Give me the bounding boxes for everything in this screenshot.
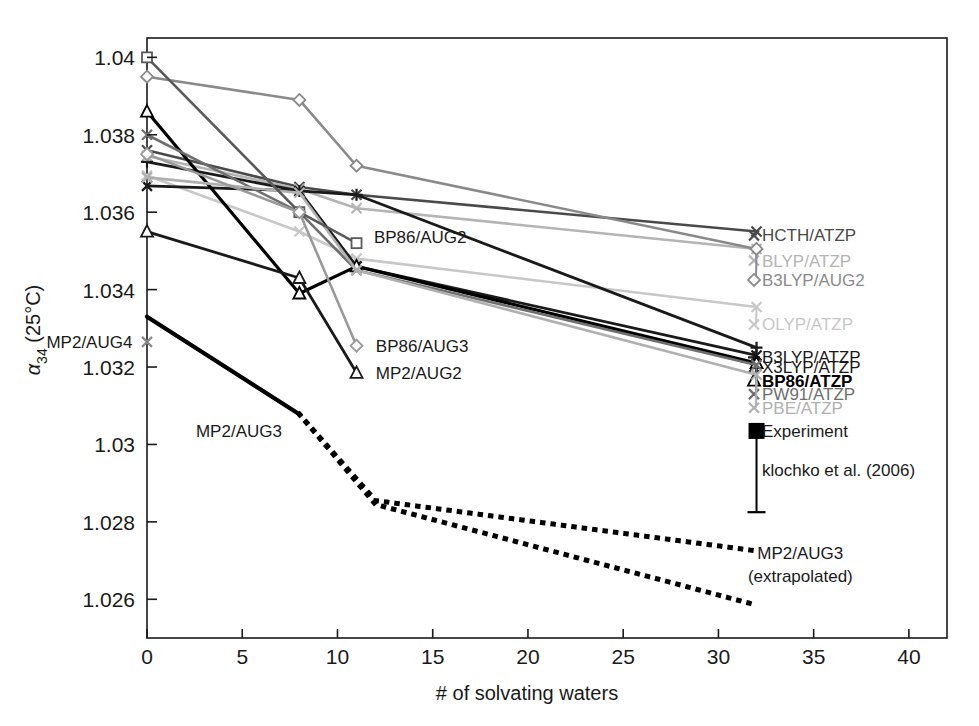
x-tick-label: 10 [326, 645, 349, 668]
legend-leader-8 [756, 375, 757, 408]
x-tick-label: 0 [141, 645, 153, 668]
annotation-mp2-aug3: MP2/AUG3 [196, 422, 282, 441]
legend-label-b3lyp-aug2[interactable]: B3LYP/AUG2 [762, 271, 865, 290]
x-tick-label: 30 [707, 645, 730, 668]
x-axis-title: # of solvating waters [436, 682, 618, 704]
annotation-extrapolated-line2: (extrapolated) [748, 567, 853, 586]
x-tick-label: 40 [897, 645, 920, 668]
y-tick-label: 1.03 [94, 433, 135, 456]
legend-label-pbe-atzp[interactable]: PBE/ATZP [762, 399, 843, 418]
alpha34-vs-solvating-waters-chart: 05101520253035401.0261.0281.031.0321.034… [0, 0, 979, 726]
legend-label-blyp-atzp[interactable]: BLYP/ATZP [762, 252, 851, 271]
chart-figure: 05101520253035401.0261.0281.031.0321.034… [0, 0, 979, 726]
annotation-bp86-aug3: BP86/AUG3 [376, 337, 469, 356]
y-tick-label: 1.036 [82, 201, 135, 224]
annotation-bp86-aug2: BP86/AUG2 [374, 228, 467, 247]
x-tick-label: 20 [516, 645, 539, 668]
annotation-extrapolated-line1: MP2/AUG3 [757, 544, 843, 563]
x-tick-label: 15 [421, 645, 444, 668]
y-tick-label: 1.038 [82, 124, 135, 147]
y-tick-label: 1.026 [82, 588, 135, 611]
x-tick-label: 5 [236, 645, 248, 668]
y-tick-label: 1.028 [82, 511, 135, 534]
y-tick-label: 1.034 [82, 279, 135, 302]
y-tick-label: 1.04 [94, 46, 135, 69]
annotation-mp2-aug4: MP2/AUG4 [46, 333, 132, 352]
data-point-9-2 [352, 238, 362, 248]
annotation-mp2-aug2: MP2/AUG2 [376, 364, 462, 383]
x-tick-label: 35 [802, 645, 825, 668]
legend-label-experiment[interactable]: Experiment [762, 422, 848, 441]
y-tick-label: 1.032 [82, 356, 135, 379]
legend-label-olyp-atzp[interactable]: OLYP/ATZP [762, 315, 853, 334]
legend-label-hcth-atzp[interactable]: HCTH/ATZP [762, 226, 856, 245]
x-tick-label: 25 [612, 645, 635, 668]
legend-label-experiment-citation[interactable]: klochko et al. (2006) [762, 461, 915, 480]
